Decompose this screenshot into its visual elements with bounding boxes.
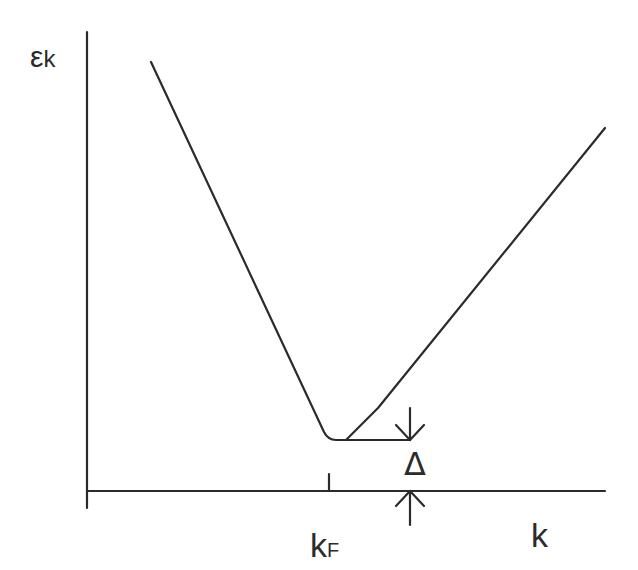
fermi-subscript: F	[327, 539, 339, 561]
diagram-canvas	[0, 0, 638, 570]
y-axis-label: εk	[30, 42, 55, 72]
y-axis-symbol: ε	[30, 40, 43, 73]
gap-arrow-up-icon	[396, 491, 424, 525]
gap-label: Δ	[404, 448, 426, 480]
fermi-symbol: k	[310, 526, 327, 564]
x-axis-label: k	[531, 518, 548, 552]
fermi-wavevector-label: kF	[310, 528, 339, 562]
dispersion-curve	[151, 62, 605, 440]
y-axis-subscript: k	[43, 45, 55, 72]
gap-arrow-down-icon	[396, 408, 424, 440]
